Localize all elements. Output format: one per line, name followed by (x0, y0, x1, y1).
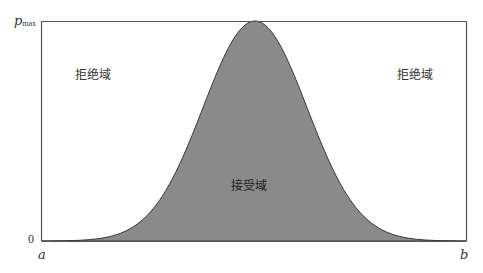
zero-label: 0 (28, 232, 34, 246)
acceptance-area (42, 21, 466, 241)
p-max-label: pmax (14, 13, 36, 28)
accept-region-label: 接受域 (231, 178, 267, 193)
a-label: a (38, 247, 46, 262)
diagram-canvas: pmax 0 a b 拒绝域 拒绝域 接受域 (0, 0, 483, 273)
left-reject-region-label: 拒绝域 (75, 67, 111, 82)
b-label: b (460, 247, 468, 262)
right-reject-region-label: 拒绝域 (397, 67, 433, 82)
